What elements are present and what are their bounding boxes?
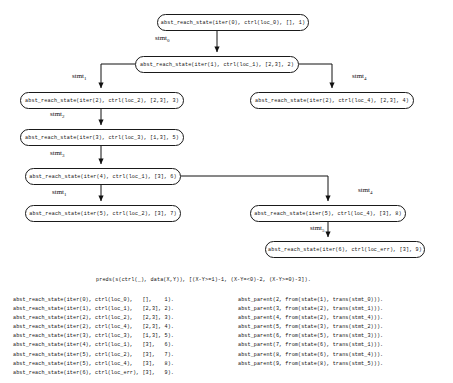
fact-line: abst_parent(3, from(state(2), trans(stmt…	[238, 305, 383, 314]
fact-line: abst_reach_state(iter(1), ctrl(loc_1), […	[13, 305, 174, 314]
fact-line: abst_parent(7, from(state(6), trans(stmt…	[238, 341, 383, 350]
fact-line: abst_reach_state(iter(3), ctrl(loc_3), […	[13, 332, 174, 341]
fact-line: abst_reach_state(iter(2), ctrl(loc_2), […	[13, 314, 174, 323]
derivation-tree-diagram: abst_reach_state(iter(0), ctrl(loc_0), […	[0, 0, 453, 383]
fact-line: abst_reach_state(iter(4), ctrl(loc_1), […	[13, 341, 174, 350]
fact-line: abst_parent(6, from(state(5), trans(stmt…	[238, 332, 383, 341]
fact-line: abst_reach_state(iter(5), ctrl(loc_4), […	[13, 360, 174, 369]
edge-n2-n3	[101, 64, 135, 88]
edge-label: stmt1	[72, 72, 87, 81]
edge-label: stmt1	[52, 188, 67, 197]
fact-line: abst_reach_state(iter(6), ctrl(loc_err),…	[13, 369, 174, 378]
tree-node[interactable]: abst_reach_state(iter(6), ctrl(loc_err),…	[265, 241, 425, 258]
edge-n6-n8	[181, 176, 328, 201]
tree-node[interactable]: abst_reach_state(iter(2), ctrl(loc_4), […	[250, 92, 414, 109]
tree-node[interactable]: abst_reach_state(iter(4), ctrl(loc_1), […	[25, 168, 181, 185]
edge-label: stmt2	[50, 110, 65, 119]
fact-line: abst_parent(5, from(state(3), trans(stmt…	[238, 323, 383, 332]
abst-reach-state-fact-list: abst_reach_state(iter(0), ctrl(loc_0), […	[13, 296, 174, 378]
edge-label: stmt3	[50, 149, 65, 158]
preds-declaration: preds(s(ctrl(_), data(X,Y)), [(X-Y>=1)-1…	[96, 277, 311, 283]
edge-label: stmt5	[310, 224, 325, 233]
tree-node[interactable]: abst_reach_state(iter(0), ctrl(loc_0), […	[157, 14, 309, 31]
tree-node[interactable]: abst_reach_state(iter(5), ctrl(loc_2), […	[25, 205, 181, 222]
tree-node[interactable]: abst_reach_state(iter(5), ctrl(loc_4), […	[250, 205, 406, 222]
fact-line: abst_parent(4, from(state(2), trans(stmt…	[238, 314, 383, 323]
fact-line: abst_parent(8, from(state(6), trans(stmt…	[238, 351, 383, 360]
tree-node[interactable]: abst_reach_state(iter(3), ctrl(loc_3), […	[20, 129, 184, 146]
tree-node[interactable]: abst_reach_state(iter(1), ctrl(loc_1), […	[135, 56, 299, 73]
fact-line: abst_parent(9, from(state(8), trans(stmt…	[238, 360, 383, 369]
abst-parent-fact-list: abst_parent(2, from(state(1), trans(stmt…	[238, 296, 383, 369]
tree-node[interactable]: abst_reach_state(iter(2), ctrl(loc_2), […	[20, 92, 184, 109]
edge-n2-n4	[299, 64, 332, 88]
edge-label: stmt4	[352, 72, 367, 81]
fact-line: abst_reach_state(iter(0), ctrl(loc_0), […	[13, 296, 174, 305]
fact-line: abst_reach_state(iter(5), ctrl(loc_2), […	[13, 351, 174, 360]
edge-label: stmt0	[155, 34, 170, 43]
fact-line: abst_reach_state(iter(2), ctrl(loc_4), […	[13, 323, 174, 332]
edge-label: stmt4	[358, 186, 373, 195]
fact-line: abst_parent(2, from(state(1), trans(stmt…	[238, 296, 383, 305]
